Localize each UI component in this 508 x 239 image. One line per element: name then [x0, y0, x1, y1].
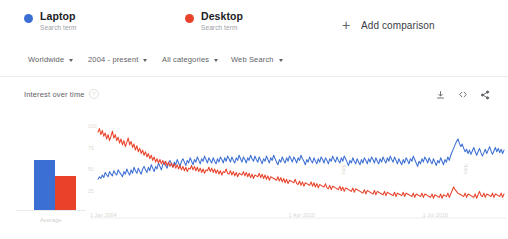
section-header: Interest over time ? [0, 86, 508, 108]
trends-line-svg [88, 112, 508, 239]
x-tick-label: 1 Jul 2016 [423, 212, 448, 218]
chevron-down-icon [214, 59, 218, 62]
add-comparison-button[interactable]: + Add comparison [341, 18, 435, 32]
embed-icon[interactable] [457, 89, 468, 100]
average-baseline [16, 210, 86, 211]
filter-timerange[interactable]: 2004 - present [88, 55, 147, 64]
legend-subtitle-desktop: Search term [201, 25, 243, 32]
average-bar-laptop[interactable] [34, 160, 55, 210]
download-icon[interactable] [435, 89, 446, 100]
google-trends-page: Laptop Search term Desktop Search term +… [0, 0, 508, 239]
legend-dot-desktop [185, 14, 194, 23]
add-comparison-label: Add comparison [361, 20, 435, 31]
plus-icon: + [341, 18, 351, 32]
legend-subtitle-laptop: Search term [40, 25, 77, 32]
filter-bar: Worldwide 2004 - present All categories … [0, 50, 508, 77]
y-tick-label: 50 [88, 166, 94, 172]
average-bar-chart: Average [14, 120, 88, 232]
interest-over-time-chart[interactable]: 100755025 1 Jan 20041 Apr 20101 Jul 2016… [88, 112, 508, 239]
legend-term-laptop: Laptop [40, 11, 77, 22]
chart-actions [435, 89, 490, 100]
legend-term-desktop: Desktop [201, 11, 243, 22]
legend-dot-laptop [24, 14, 33, 23]
chart-note-marker[interactable]: Note [463, 164, 468, 175]
y-tick-label: 100 [88, 123, 97, 129]
average-bars [14, 132, 88, 210]
legend-text-group-desktop: Desktop Search term [201, 11, 243, 32]
average-bar-desktop[interactable] [55, 176, 76, 210]
share-icon[interactable] [479, 89, 490, 100]
section-title: Interest over time [24, 90, 85, 99]
chevron-down-icon [69, 59, 73, 62]
series-line-laptop [98, 139, 504, 179]
y-tick-label: 25 [88, 188, 94, 194]
filter-location[interactable]: Worldwide [28, 55, 73, 64]
legend-item-laptop[interactable]: Laptop Search term [24, 11, 77, 32]
chevron-down-icon [279, 59, 283, 62]
filter-location-label: Worldwide [28, 55, 64, 64]
filter-timerange-label: 2004 - present [88, 55, 138, 64]
x-tick-label: 1 Jan 2004 [90, 212, 117, 218]
x-tick-label: 1 Apr 2010 [289, 212, 315, 218]
legend-row: Laptop Search term Desktop Search term +… [0, 0, 508, 46]
chart-note-marker[interactable]: Note [341, 164, 346, 175]
filter-category-label: All categories [162, 55, 209, 64]
legend-item-desktop[interactable]: Desktop Search term [185, 11, 243, 32]
filter-search-type-label: Web Search [231, 55, 274, 64]
legend-text-group-laptop: Laptop Search term [40, 11, 77, 32]
filter-category[interactable]: All categories [162, 55, 218, 64]
y-tick-label: 75 [88, 145, 94, 151]
average-label: Average [14, 217, 88, 223]
chevron-down-icon [143, 59, 147, 62]
charts-container: Average 100755025 1 Jan 20041 Apr 20101 … [0, 112, 508, 239]
filter-search-type[interactable]: Web Search [231, 55, 283, 64]
help-icon[interactable]: ? [89, 89, 99, 99]
